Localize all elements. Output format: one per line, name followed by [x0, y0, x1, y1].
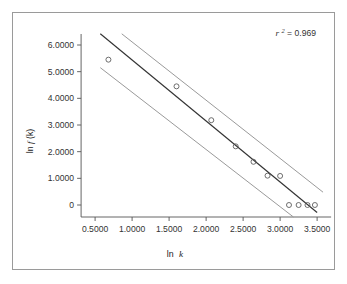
tick-group	[77, 45, 317, 221]
y-axis-title: ln f (k)	[25, 129, 35, 154]
r-symbol: r	[276, 28, 280, 38]
regression-line-group	[100, 34, 317, 213]
upper-confidence-band	[122, 34, 323, 192]
x-tick-label: 2.0000	[193, 224, 220, 234]
regression-line	[100, 34, 317, 213]
x-tick-label: 3.5000	[304, 224, 331, 234]
data-point	[296, 203, 301, 208]
x-tick-label: 1.0000	[119, 224, 146, 234]
x-tick-label: 2.5000	[230, 224, 257, 234]
data-points-group	[106, 57, 317, 207]
y-tick-label: 2.0000	[48, 147, 75, 157]
lower-confidence-band	[100, 68, 293, 217]
data-point	[286, 203, 291, 208]
y-tick-label: 0	[69, 200, 74, 210]
data-point	[106, 57, 111, 62]
figure-frame: 01.00002.00003.00004.00005.00006.00000.5…	[12, 12, 335, 270]
y-axis-title-plain-b: (k)	[25, 129, 35, 139]
x-axis-title: ln k	[167, 249, 184, 259]
data-point	[174, 84, 179, 89]
x-axis-title-plain: ln	[167, 249, 174, 259]
y-tick-label: 6.0000	[48, 40, 75, 50]
data-point	[278, 173, 283, 178]
data-point	[209, 118, 214, 123]
x-axis-title-italic: k	[179, 249, 184, 259]
x-tick-label: 3.0000	[267, 224, 294, 234]
r-squared-annotation: r 2 = 0.969	[276, 25, 317, 38]
y-tick-label: 3.0000	[48, 120, 75, 130]
scatter-plot: 01.00002.00003.00004.00005.00006.00000.5…	[13, 13, 334, 269]
x-tick-label: 0.5000	[82, 224, 109, 234]
y-tick-label: 5.0000	[48, 67, 75, 77]
y-axis-title-plain-a: ln	[25, 144, 35, 153]
r-equals-value: = 0.969	[287, 28, 316, 38]
data-point	[265, 173, 270, 178]
y-axis-title-italic: f	[25, 140, 35, 144]
y-tick-label: 1.0000	[48, 173, 75, 183]
axes-group	[81, 34, 331, 217]
r-exponent: 2	[281, 27, 285, 34]
data-point	[312, 203, 317, 208]
x-tick-label: 1.5000	[156, 224, 183, 234]
y-tick-label: 4.0000	[48, 93, 75, 103]
